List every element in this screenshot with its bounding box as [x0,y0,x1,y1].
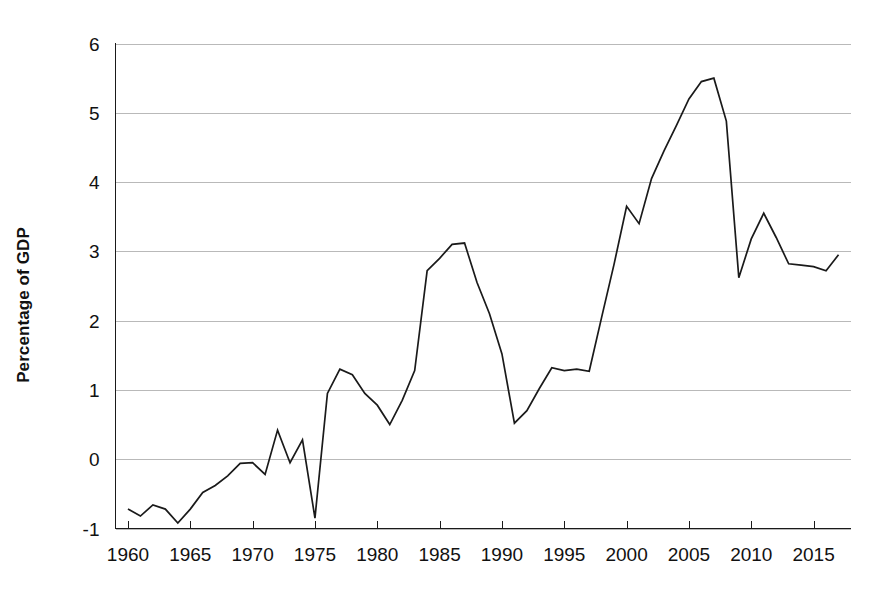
x-tick-label-1965: 1965 [169,544,211,565]
x-tick-label-1985: 1985 [418,544,460,565]
line-chart-svg: -10123456 196019651970197519801985199019… [0,0,874,610]
x-tick-label-1995: 1995 [543,544,585,565]
x-tick-label-1970: 1970 [231,544,273,565]
plot-area-wrapper: -10123456 196019651970197519801985199019… [0,0,874,610]
x-tick-label-1990: 1990 [481,544,523,565]
x-tick-label-2005: 2005 [668,544,710,565]
x-tick-label-2015: 2015 [792,544,834,565]
y-tick-label-3: 3 [89,241,100,262]
x-tick-label-2000: 2000 [605,544,647,565]
axis-lines [116,43,852,529]
y-axis-tick-labels: -10123456 [83,34,100,540]
x-tick-label-1960: 1960 [107,544,149,565]
x-tick-label-1975: 1975 [294,544,336,565]
x-tick-label-1980: 1980 [356,544,398,565]
y-tick-label-5: 5 [89,103,100,124]
y-tick-label-0: 0 [89,449,100,470]
x-axis-tick-marks [129,521,815,529]
y-tick-label--1: -1 [83,519,100,540]
x-axis-tick-labels: 1960196519701975198019851990199520002005… [107,544,835,565]
y-tick-label-2: 2 [89,311,100,332]
y-tick-label-4: 4 [89,172,100,193]
y-tick-label-1: 1 [89,380,100,401]
chart-container: Percentage of GDP -10123456 196019651970… [0,0,874,610]
data-series-line [128,78,839,523]
x-tick-label-2010: 2010 [730,544,772,565]
gridlines [116,45,852,530]
y-tick-label-6: 6 [89,34,100,55]
